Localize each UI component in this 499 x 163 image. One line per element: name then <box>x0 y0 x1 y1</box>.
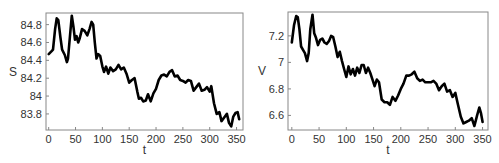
series-line-s <box>49 16 240 127</box>
series-line-v <box>292 15 483 126</box>
x-tick-label: 100 <box>337 133 355 145</box>
plot-frame <box>46 13 243 130</box>
x-tick-label: 200 <box>147 133 165 145</box>
chart-v-vs-t: 050100150200250300350 6.66.877.2 t V <box>250 0 499 163</box>
x-axis-label: t <box>143 143 147 157</box>
x-tick-label: 50 <box>69 133 81 145</box>
y-axis-ticks: 83.88484.284.484.684.8 <box>21 19 49 120</box>
chart-v-svg: 050100150200250300350 6.66.877.2 t V <box>250 0 499 163</box>
x-tick-label: 250 <box>174 133 192 145</box>
y-axis-label: S <box>9 65 17 79</box>
y-tick-label: 84.8 <box>21 19 42 31</box>
x-tick-label: 150 <box>364 133 382 145</box>
x-axis-label: t <box>386 143 390 157</box>
x-tick-label: 350 <box>473 133 491 145</box>
y-tick-label: 6.8 <box>269 83 284 95</box>
y-tick-label: 83.8 <box>21 108 42 120</box>
y-tick-label: 6.6 <box>269 109 284 121</box>
y-tick-label: 7.2 <box>269 30 284 42</box>
x-tick-label: 250 <box>419 133 437 145</box>
x-tick-label: 50 <box>313 133 325 145</box>
x-tick-label: 200 <box>392 133 410 145</box>
plot-frame <box>288 12 488 130</box>
y-tick-label: 84 <box>30 90 42 102</box>
x-tick-label: 150 <box>120 133 138 145</box>
y-tick-label: 84.4 <box>21 54 42 66</box>
y-tick-label: 84.2 <box>21 72 42 84</box>
chart-s-svg: 050100150200250300350 83.88484.284.484.6… <box>0 0 249 163</box>
chart-s-vs-t: 050100150200250300350 83.88484.284.484.6… <box>0 0 249 163</box>
y-tick-label: 7 <box>278 56 284 68</box>
x-tick-label: 350 <box>227 133 245 145</box>
y-axis-label: V <box>258 64 266 78</box>
x-tick-label: 300 <box>201 133 219 145</box>
x-tick-label: 0 <box>289 133 295 145</box>
x-tick-label: 300 <box>446 133 464 145</box>
x-tick-label: 100 <box>93 133 111 145</box>
y-tick-label: 84.6 <box>21 36 42 48</box>
x-tick-label: 0 <box>46 133 52 145</box>
